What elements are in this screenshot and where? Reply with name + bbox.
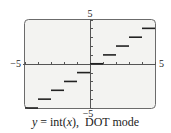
calculator-graph: −5 5 5 −5 — [0, 0, 171, 133]
caption-equals: = int( — [37, 115, 66, 129]
x-axis-min-label: −5 — [10, 58, 21, 69]
x-axis-max-label: 5 — [159, 58, 164, 69]
caption-mode: DOT mode — [85, 115, 139, 129]
caption-close: ), — [72, 115, 79, 129]
figure-caption: y = int(x), DOT mode — [0, 115, 171, 129]
y-axis-max-label: 5 — [88, 8, 93, 19]
